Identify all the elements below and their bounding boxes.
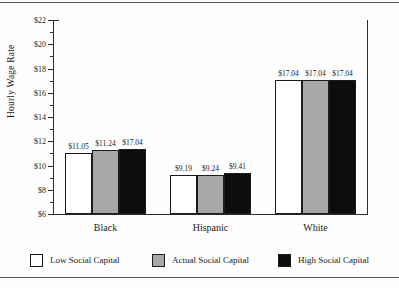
bottom-rule (0, 277, 399, 278)
bar-black-low (65, 153, 92, 214)
y-axis-line (53, 20, 54, 215)
y-tick-label: $16 (34, 88, 46, 97)
y-tick-mark (48, 93, 53, 94)
legend-swatch-high (278, 254, 291, 267)
top-rule (0, 2, 399, 3)
y-tick-mark (48, 141, 53, 142)
category-label-hispanic: Hispanic (193, 222, 229, 233)
y-tick-label: $6 (38, 210, 46, 219)
legend-label: Low Social Capital (50, 255, 120, 265)
bar-value-label: $9.41 (229, 162, 246, 171)
y-tick-mark (48, 117, 53, 118)
bar-value-label: $17.04 (122, 138, 143, 147)
bar-value-label: $17.04 (278, 69, 299, 78)
y-tick-label: $22 (34, 16, 46, 25)
category-label-black: Black (94, 222, 117, 233)
bar-value-label: $17.04 (332, 69, 353, 78)
y-tick-mark (48, 69, 53, 70)
y-tick-mark (48, 214, 53, 215)
y-minor-tick-mark (50, 105, 53, 106)
category-label-white: White (303, 222, 327, 233)
y-tick-label: $20 (34, 40, 46, 49)
bar-value-label: $17.04 (305, 69, 326, 78)
y-tick-mark (48, 166, 53, 167)
legend-label: Actual Social Capital (172, 255, 249, 265)
x-axis-line (53, 214, 368, 215)
legend-swatch-low (30, 254, 43, 267)
chart-legend: Low Social CapitalActual Social CapitalH… (0, 252, 399, 272)
legend-item-low[interactable]: Low Social Capital (30, 252, 120, 268)
y-tick-label: $10 (34, 161, 46, 170)
bar-white-actual (302, 80, 329, 214)
y-minor-tick-mark (50, 153, 53, 154)
bar-hispanic-actual (197, 175, 224, 214)
bar-black-actual (92, 150, 119, 214)
bar-black-high (119, 149, 146, 214)
legend-item-actual[interactable]: Actual Social Capital (152, 252, 249, 268)
y-minor-tick-mark (50, 202, 53, 203)
bar-hispanic-low (170, 175, 197, 214)
y-tick-label: $12 (34, 137, 46, 146)
bar-value-label: $9.24 (202, 164, 219, 173)
y-minor-tick-mark (50, 129, 53, 130)
y-minor-tick-mark (50, 178, 53, 179)
bar-value-label: $11.24 (95, 139, 115, 148)
bar-value-label: $9.19 (175, 164, 192, 173)
plot-area: $6$8$10$12$14$16$18$20$22 $11.05$11.24$1… (53, 20, 368, 215)
legend-label: High Social Capital (298, 255, 369, 265)
y-tick-label: $14 (34, 113, 46, 122)
y-minor-tick-mark (50, 32, 53, 33)
chart-figure: Hourly Wage Rate $6$8$10$12$14$16$18$20$… (0, 0, 399, 288)
y-axis-top-cap (53, 20, 59, 21)
y-axis-title: Hourly Wage Rate (6, 45, 16, 119)
bar-white-low (275, 80, 302, 214)
bar-white-high (329, 80, 356, 214)
y-tick-mark (48, 20, 53, 21)
legend-swatch-actual (152, 254, 165, 267)
y-tick-mark (48, 44, 53, 45)
plot-right-border (367, 20, 368, 215)
y-minor-tick-mark (50, 81, 53, 82)
y-tick-label: $8 (38, 185, 46, 194)
bar-hispanic-high (224, 173, 251, 214)
y-minor-tick-mark (50, 56, 53, 57)
legend-item-high[interactable]: High Social Capital (278, 252, 369, 268)
y-tick-label: $18 (34, 64, 46, 73)
y-tick-mark (48, 190, 53, 191)
bar-value-label: $11.05 (68, 142, 88, 151)
